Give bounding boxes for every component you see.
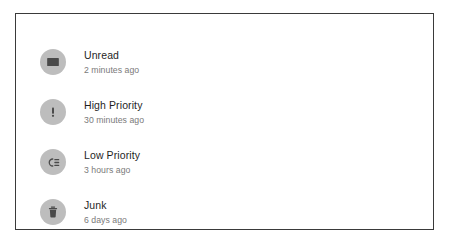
- list-item[interactable]: Low Priority 3 hours ago: [16, 137, 433, 187]
- screen-root: Unread 2 minutes ago High Priority 30 mi…: [0, 0, 449, 242]
- list-item-title: Junk: [84, 199, 127, 212]
- notification-card: Unread 2 minutes ago High Priority 30 mi…: [15, 13, 434, 230]
- list-item-timestamp: 3 hours ago: [84, 164, 140, 176]
- list-item[interactable]: Unread 2 minutes ago: [16, 37, 433, 87]
- list-item-text: High Priority 30 minutes ago: [84, 99, 144, 126]
- list-item-timestamp: 6 days ago: [84, 214, 127, 226]
- low-priority-icon: [40, 149, 66, 175]
- trash-icon: [40, 199, 66, 225]
- list-item-title: High Priority: [84, 99, 144, 112]
- list-item[interactable]: High Priority 30 minutes ago: [16, 87, 433, 137]
- list-item-title: Low Priority: [84, 149, 140, 162]
- envelope-icon: [40, 49, 66, 75]
- exclamation-icon: [40, 99, 66, 125]
- list-item-text: Unread 2 minutes ago: [84, 49, 139, 76]
- mail-category-list: Unread 2 minutes ago High Priority 30 mi…: [16, 14, 433, 237]
- list-item-text: Low Priority 3 hours ago: [84, 149, 140, 176]
- list-item-text: Junk 6 days ago: [84, 199, 127, 226]
- list-item[interactable]: Junk 6 days ago: [16, 187, 433, 237]
- list-item-timestamp: 2 minutes ago: [84, 64, 139, 76]
- list-item-title: Unread: [84, 49, 139, 62]
- list-item-timestamp: 30 minutes ago: [84, 114, 144, 126]
